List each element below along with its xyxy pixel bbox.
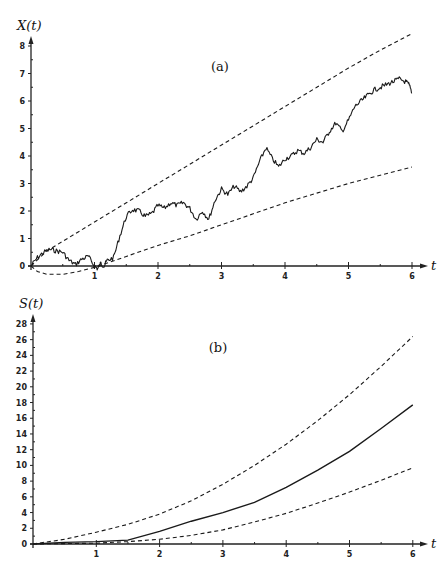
x-tick-label: 4 bbox=[283, 550, 289, 559]
y-tick-label: 2 bbox=[21, 524, 27, 533]
y-axis-arrow-icon bbox=[31, 314, 36, 322]
y-tick-label: 8 bbox=[21, 477, 27, 486]
y-tick-label: 12 bbox=[16, 446, 27, 455]
y-tick-label: 18 bbox=[16, 399, 28, 408]
y-tick-label: 6 bbox=[21, 493, 27, 502]
x-tick-label: 6 bbox=[410, 550, 416, 559]
y-tick-label: 0 bbox=[21, 540, 27, 549]
x-tick-label: 3 bbox=[220, 550, 226, 559]
series-lower-envelope bbox=[31, 167, 412, 274]
x-tick-label: 5 bbox=[346, 272, 352, 281]
x-tick-label: 5 bbox=[347, 550, 353, 559]
y-tick-label: 24 bbox=[16, 351, 28, 360]
y-tick-label: 6 bbox=[19, 97, 25, 106]
y-tick-label: 1 bbox=[19, 235, 25, 244]
series-lower-envelope bbox=[33, 468, 413, 544]
y-tick-label: 22 bbox=[16, 367, 27, 376]
series-sample-path-x-t- bbox=[31, 77, 412, 270]
y-tick-label: 8 bbox=[19, 42, 25, 51]
y-axis-arrow-icon bbox=[29, 36, 34, 44]
y-tick-label: 5 bbox=[19, 125, 25, 134]
x-tick-label: 2 bbox=[157, 550, 163, 559]
y-tick-label: 14 bbox=[16, 430, 28, 439]
y-tick-label: 28 bbox=[16, 320, 28, 329]
y-tick-label: 10 bbox=[16, 461, 28, 470]
y-axis-title: S(t) bbox=[19, 296, 43, 311]
panel-label: (b) bbox=[209, 340, 227, 355]
panel-a-chart: 012345678123456X(t)t(a) bbox=[16, 18, 437, 281]
x-tick-label: 1 bbox=[92, 272, 98, 281]
x-axis-arrow-icon bbox=[420, 542, 428, 547]
y-tick-label: 20 bbox=[16, 383, 28, 392]
x-tick-label: 2 bbox=[155, 272, 161, 281]
series-s-t- bbox=[33, 405, 413, 544]
x-axis-title: t bbox=[431, 536, 437, 551]
x-tick-label: 3 bbox=[219, 272, 225, 281]
x-axis-title: t bbox=[431, 258, 437, 273]
panel-label: (a) bbox=[211, 59, 229, 74]
y-tick-label: 4 bbox=[19, 152, 25, 161]
y-tick-label: 26 bbox=[16, 336, 28, 345]
y-tick-label: 16 bbox=[16, 414, 28, 423]
y-tick-label: 4 bbox=[21, 509, 27, 518]
y-tick-label: 0 bbox=[19, 262, 25, 271]
figure: 012345678123456X(t)t(a) 0246810121416182… bbox=[0, 0, 445, 569]
panel-b-chart: 0246810121416182022242628123456S(t)t(b) bbox=[16, 296, 437, 559]
y-tick-label: 3 bbox=[19, 180, 25, 189]
y-axis-title: X(t) bbox=[16, 18, 42, 33]
x-tick-label: 1 bbox=[94, 550, 100, 559]
y-tick-label: 7 bbox=[19, 70, 25, 79]
x-axis-arrow-icon bbox=[420, 264, 428, 269]
x-tick-label: 6 bbox=[409, 272, 415, 281]
y-tick-label: 2 bbox=[19, 207, 25, 216]
x-tick-label: 4 bbox=[282, 272, 288, 281]
